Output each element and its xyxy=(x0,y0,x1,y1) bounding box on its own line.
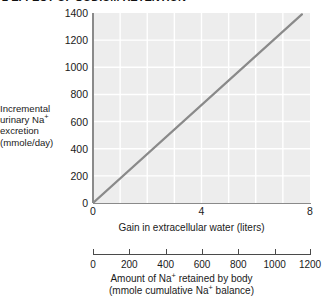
x-axis-line xyxy=(93,203,311,205)
y-axis-line xyxy=(92,13,94,203)
y-axis-title-line-3: excretion xyxy=(0,125,72,136)
secondary-axis-title: Amount of Na+ retained by body (mmole cu… xyxy=(40,273,323,298)
x2-tick-400: 400 xyxy=(157,259,174,270)
x2-tick-1200: 1200 xyxy=(299,259,321,270)
x2-tick-200: 200 xyxy=(121,259,138,270)
x2-tick-1000: 1000 xyxy=(264,259,286,270)
y-axis-title-line-1: Incremental xyxy=(0,103,72,114)
y-tick-800: 800 xyxy=(48,89,88,99)
superscript-plus: + xyxy=(209,283,213,292)
secondary-axis-title-line-1: Amount of Na+ retained by body xyxy=(40,273,323,285)
secondary-tick-400 xyxy=(166,249,167,255)
y-tick-1200: 1200 xyxy=(48,35,88,45)
x-axis-title: Gain in extracellular water (liters) xyxy=(60,222,323,233)
x2-tick-800: 800 xyxy=(230,259,247,270)
superscript-plus: + xyxy=(172,271,176,280)
secondary-tick-0 xyxy=(93,249,94,255)
secondary-tick-800 xyxy=(238,249,239,255)
x-tick-4: 4 xyxy=(199,206,205,217)
y-tick-1400: 1400 xyxy=(48,8,88,18)
x2-tick-600: 600 xyxy=(194,259,211,270)
secondary-tick-1200 xyxy=(310,249,311,255)
y-axis-title-line-4: (mmole/day) xyxy=(0,137,72,148)
figure-caption: 2 EFFECT OF SODIUM RETENTION xyxy=(2,0,186,3)
y-tick-200: 200 xyxy=(48,171,88,181)
plot-area xyxy=(93,13,310,203)
y-axis-title-line-2: urinary Na+ xyxy=(0,114,72,125)
secondary-tick-600 xyxy=(202,249,203,255)
secondary-axis: 0 200 400 600 800 1000 1200 Amount of Na… xyxy=(0,245,323,303)
x-tick-8: 8 xyxy=(307,206,313,217)
y-tick-1000: 1000 xyxy=(48,62,88,72)
superscript-plus: + xyxy=(44,112,48,121)
secondary-axis-ticklabels: 0 200 400 600 800 1000 1200 xyxy=(0,259,323,272)
secondary-axis-title-line-2: (mmole cumulative Na+ balance) xyxy=(40,285,323,297)
secondary-tick-1000 xyxy=(275,249,276,255)
y-axis-title: Incremental urinary Na+ excretion (mmole… xyxy=(0,103,72,148)
x2-tick-0: 0 xyxy=(90,259,96,270)
data-line-series xyxy=(93,13,310,203)
figure: 2 EFFECT OF SODIUM RETENTION 1 xyxy=(0,0,323,303)
x-tick-0: 0 xyxy=(90,206,96,217)
x-axis-ticklabels: 0 4 8 xyxy=(0,206,323,220)
secondary-tick-200 xyxy=(129,249,130,255)
